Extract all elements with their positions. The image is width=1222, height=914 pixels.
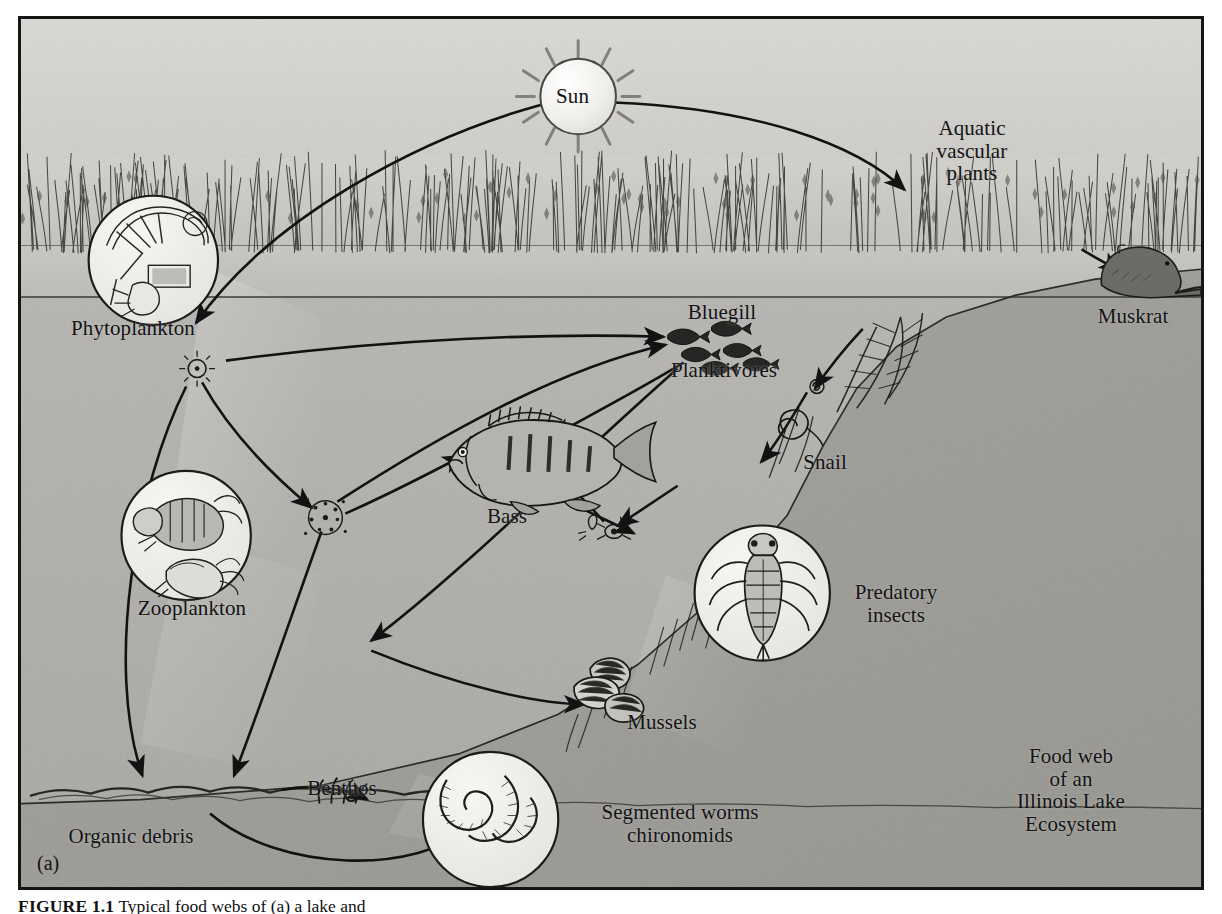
segmented-worms-inset [423,752,558,887]
sun-icon [516,41,639,152]
caption-text: Typical food webs of (a) a lake and [118,896,365,914]
food-web-figure: Sun Aquatic vascular plants Muskrat Phyt… [18,16,1204,890]
figure-caption: FIGURE 1.1 Typical food webs of (a) a la… [18,896,1204,914]
mussels-illustration [574,658,644,722]
predatory-insect-small [578,515,631,540]
bass-illustration [449,406,656,514]
bluegill-school [668,321,779,375]
organisms [21,19,1201,887]
zooplankton-cluster [304,498,347,535]
phytoplankton-dot [179,351,215,387]
phytoplankton-inset [89,196,218,325]
predatory-insects-inset [695,525,830,660]
muskrat-illustration [1101,245,1201,298]
screenshot-root: Sun Aquatic vascular plants Muskrat Phyt… [0,0,1222,914]
caption-label: FIGURE 1.1 [18,896,114,914]
lake-scene: Sun Aquatic vascular plants Muskrat Phyt… [21,19,1201,887]
zooplankton-inset [121,471,250,600]
benthos-illustration [319,778,368,804]
panel-tag-a: (a) [37,852,59,875]
